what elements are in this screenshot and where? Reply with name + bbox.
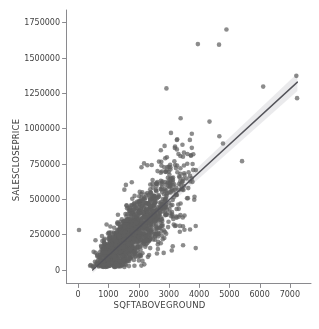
y-tick-label: 500000 bbox=[29, 194, 60, 203]
y-tick-label: 0 bbox=[55, 265, 60, 274]
x-tick-label: 6000 bbox=[249, 290, 269, 299]
y-tick-label: 1250000 bbox=[24, 89, 60, 98]
x-tick-label: 0 bbox=[76, 290, 81, 299]
x-tick-label: 7000 bbox=[280, 290, 300, 299]
x-tick-label: 3000 bbox=[159, 290, 179, 299]
y-axis-label: SALESCLOSEPRICE bbox=[11, 90, 21, 230]
x-tick-label: 1000 bbox=[98, 290, 118, 299]
y-tick-label: 250000 bbox=[29, 230, 60, 239]
x-axis-label: SQFTABOVEGROUND bbox=[0, 300, 319, 310]
x-tick-label: 2000 bbox=[128, 290, 148, 299]
y-tick-label: 1750000 bbox=[24, 18, 60, 27]
x-tick-label: 5000 bbox=[219, 290, 239, 299]
x-tick-label: 4000 bbox=[189, 290, 209, 299]
y-tick-label: 1000000 bbox=[24, 124, 60, 133]
y-tick-label: 1500000 bbox=[24, 53, 60, 62]
y-tick-label: 750000 bbox=[29, 159, 60, 168]
scatter-chart-figure: SQFTABOVEGROUND SALESCLOSEPRICE 02500005… bbox=[0, 0, 319, 329]
